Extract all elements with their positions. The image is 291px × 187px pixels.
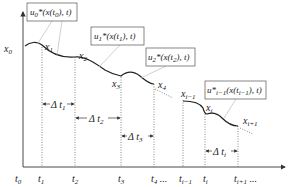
time-axis-labels: t0 t1 t2 t3 t4 ... ti−1 ti ti+1 ... [15, 173, 257, 186]
svg-text:Δ t2: Δ t2 [88, 113, 104, 126]
svg-text:Δ t1: Δ t1 [50, 99, 65, 112]
control-box-ui-1: u*i−1(x(ti−1), t) [205, 81, 266, 99]
svg-text:Δ t3: Δ t3 [127, 131, 143, 144]
control-box-u0: u0*(x(t0), t) [27, 3, 77, 21]
control-box-u1: u1*(x(t1), t) [91, 27, 144, 45]
svg-text:t4 ...: t4 ... [151, 173, 167, 186]
trajectory-diagram: u0*(x(t0), t) u1*(x(t1), t) u2*(x(t2), t… [0, 0, 291, 187]
interval-labels: Δ t1 Δ t2 Δ t3 Δ ti [50, 99, 226, 159]
svg-text:x3: x3 [111, 78, 120, 91]
svg-text:xi−1: xi−1 [180, 88, 196, 101]
svg-text:Δ ti: Δ ti [212, 146, 226, 159]
svg-text:xi+1: xi+1 [242, 115, 258, 128]
trajectory-continuation [240, 128, 253, 134]
svg-text:t3: t3 [118, 173, 125, 186]
svg-text:x1: x1 [44, 41, 53, 54]
svg-text:t0: t0 [15, 173, 22, 186]
svg-text:x0: x0 [3, 43, 12, 56]
svg-text:x2: x2 [78, 50, 87, 63]
svg-text:t1: t1 [38, 173, 44, 186]
svg-text:ti+1 ...: ti+1 ... [234, 173, 257, 186]
control-box-u2: u2*(x(t2), t) [146, 48, 195, 66]
svg-text:t2: t2 [72, 173, 79, 186]
svg-text:ti: ti [203, 173, 208, 186]
svg-text:x4: x4 [157, 79, 166, 92]
svg-text:ti−1: ti−1 [179, 173, 192, 186]
